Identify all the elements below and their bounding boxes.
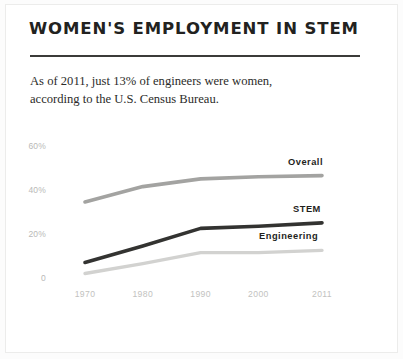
line-chart: 60% 40% 20% 0 1970 1980 1990 2000 2011 O… <box>6 5 399 354</box>
series-label-overall: Overall <box>288 157 323 167</box>
series-label-engineering: Engineering <box>259 231 318 241</box>
infographic-card: WOMEN'S EMPLOYMENT IN STEM As of 2011, j… <box>5 4 398 353</box>
plot-area <box>6 5 399 354</box>
page-background: WOMEN'S EMPLOYMENT IN STEM As of 2011, j… <box>0 0 403 359</box>
series-line-overall <box>85 176 322 202</box>
series-line-stem <box>85 223 322 263</box>
series-label-stem: STEM <box>293 204 321 214</box>
